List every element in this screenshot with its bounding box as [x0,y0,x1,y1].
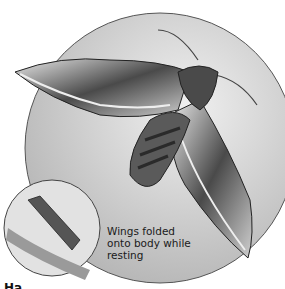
caption-line-1: Wings folded [107,225,191,237]
caption-line-2: onto body while [107,237,191,249]
partial-heading: Ha [4,281,22,289]
caption: Wings folded onto body while resting [107,225,191,261]
caption-line-3: resting [107,249,191,261]
